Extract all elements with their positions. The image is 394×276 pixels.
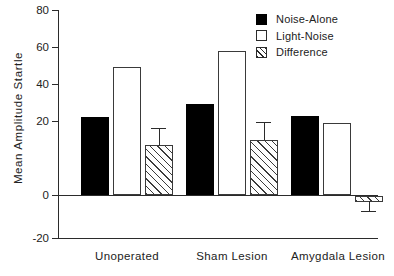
legend-item-noise-alone: Noise-Alone [256, 12, 338, 26]
legend-swatch-open-icon [256, 30, 267, 41]
x-axis-label-amygdala-lesion: Amygdala Lesion [291, 250, 385, 262]
y-tick-label-neg20: -20 [32, 232, 49, 244]
x-axis-line [58, 238, 378, 239]
y-tick-label-80: 80 [36, 4, 49, 16]
y-tick-label-60: 60 [36, 41, 49, 53]
bar-sham-lesion-light-noise [218, 51, 246, 195]
y-tick-40 [52, 84, 58, 85]
bar-sham-lesion-difference [250, 140, 278, 195]
y-tick-0 [52, 195, 58, 196]
y-tick-neg20 [52, 238, 58, 239]
y-axis-line [58, 10, 59, 238]
errorbar-sham-lesion-difference [264, 122, 265, 140]
legend-swatch-hatched-icon [256, 47, 267, 58]
bar-unoperated-difference [145, 145, 173, 195]
legend-item-difference: Difference [256, 45, 338, 59]
bar-amygdala-lesion-noise-alone [291, 116, 319, 195]
errorbar-cap-sham-lesion-difference [256, 122, 271, 123]
bar-sham-lesion-noise-alone [186, 104, 214, 195]
legend-label-noise-alone: Noise-Alone [276, 13, 338, 25]
errorbar-cap-unoperated-difference [151, 128, 166, 129]
errorbar-cap-amygdala-lesion-difference [361, 211, 376, 212]
x-axis-label-unoperated: Unoperated [95, 250, 159, 262]
legend-label-light-noise: Light-Noise [276, 30, 334, 42]
x-axis-label-sham-lesion: Sham Lesion [196, 250, 268, 262]
y-tick-label-40: 40 [36, 78, 49, 90]
legend-swatch-solid-icon [256, 14, 267, 25]
y-tick-label-0: 0 [43, 189, 49, 201]
zero-baseline [58, 195, 378, 196]
y-tick-60 [52, 47, 58, 48]
legend-label-difference: Difference [276, 46, 328, 58]
y-tick-20 [52, 121, 58, 122]
errorbar-unoperated-difference [159, 128, 160, 146]
y-tick-80 [52, 10, 58, 11]
startle-amplitude-bar-chart: Mean Amplitude Startle 80 60 40 20 0 -20 [0, 0, 394, 276]
y-tick-label-20: 20 [36, 115, 49, 127]
legend-item-light-noise: Light-Noise [256, 29, 338, 43]
y-axis-title: Mean Amplitude Startle [12, 10, 32, 226]
bar-amygdala-lesion-light-noise [323, 123, 351, 195]
legend: Noise-Alone Light-Noise Difference [256, 12, 338, 62]
bar-unoperated-noise-alone [81, 117, 109, 195]
bar-unoperated-light-noise [113, 67, 141, 195]
